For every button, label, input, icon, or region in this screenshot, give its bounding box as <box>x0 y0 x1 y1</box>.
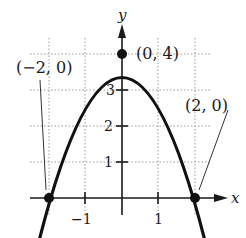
y-tick-3: 3 <box>106 82 115 98</box>
y-axis-arrow-icon <box>118 24 126 38</box>
point-vertex <box>117 49 127 59</box>
x-tick-neg1: −1 <box>71 211 92 227</box>
annotation-left-intercept: (−2, 0) <box>16 58 72 77</box>
point-right-intercept <box>190 193 200 203</box>
x-axis-arrow-icon <box>214 194 228 202</box>
annotation-right-intercept: (2, 0) <box>185 96 228 115</box>
point-left-intercept <box>44 193 54 203</box>
x-tick-1: 1 <box>154 211 163 227</box>
parabola-chart: y x 3 2 1 −1 1 (0, 4) (−2, 0) (2, 0) <box>0 0 246 238</box>
y-tick-1: 1 <box>104 154 113 170</box>
axes <box>30 24 228 215</box>
y-axis-label: y <box>117 6 127 24</box>
annotation-vertex: (0, 4) <box>136 44 179 63</box>
y-tick-2: 2 <box>104 118 113 134</box>
x-axis-label: x <box>231 189 240 207</box>
